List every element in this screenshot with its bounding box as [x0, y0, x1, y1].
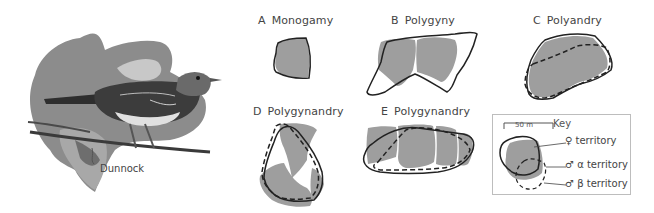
panel-label: Polyandry [547, 14, 602, 27]
panel-label: Polygyny [405, 14, 455, 27]
panel-letter: C [533, 14, 541, 27]
panel-c-territories [515, 30, 620, 105]
legend-key: 50 m Key ♀ territory ♂ α territory ♂ β t… [492, 114, 631, 195]
female-symbol: ♀ [565, 135, 572, 146]
panel-letter: E [381, 105, 388, 118]
panel-label: Polygynandry [394, 105, 470, 118]
panel-letter: B [391, 14, 399, 27]
panel-c-title: CPolyandry [533, 14, 602, 27]
dunnock-illustration [0, 0, 240, 213]
key-item-label: territory [587, 159, 628, 170]
female-territory-2 [416, 37, 457, 82]
panel-e-title: EPolygynandry [381, 105, 470, 118]
panel-b-territories [365, 30, 485, 100]
key-item-male-beta: ♂ β territory [565, 178, 628, 189]
key-item-label: territory [576, 135, 617, 146]
dunnock-label: Dunnock [100, 163, 144, 174]
key-sample-territories [496, 133, 556, 193]
scale-label: 50 m [515, 121, 533, 129]
panel-letter: D [253, 105, 262, 118]
panel-e-territories [358, 122, 478, 187]
female-territory [275, 39, 309, 78]
panel-a-title: AMonogamy [258, 14, 333, 27]
panel-a-territories [268, 35, 318, 85]
female-territory-2 [398, 125, 435, 169]
key-item-male-alpha: ♂ α territory [565, 159, 628, 170]
panel-b-title: BPolygyny [391, 14, 455, 27]
key-item-female: ♀ territory [565, 135, 616, 146]
panel-d-title: DPolygynandry [253, 105, 344, 118]
male-beta-symbol: ♂ β [565, 178, 584, 189]
panel-letter: A [258, 14, 266, 27]
key-title: Key [553, 118, 571, 129]
panel-d-territories [252, 118, 337, 208]
female-territory-1 [378, 39, 416, 86]
male-alpha-symbol: ♂ α [565, 159, 584, 170]
panel-label: Monogamy [272, 14, 334, 27]
panel-label: Polygynandry [268, 105, 344, 118]
key-item-label: territory [587, 178, 628, 189]
